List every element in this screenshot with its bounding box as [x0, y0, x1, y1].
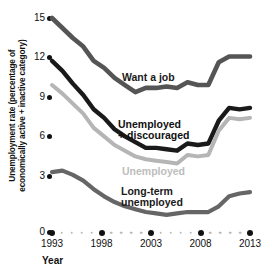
x-axis-dot-2012: [239, 231, 242, 234]
x-axis-dot-2002: [140, 231, 143, 234]
x-axis-label-2013: 2013: [239, 238, 261, 250]
series-label-unemployed-discouraged-line-2: + discouraged: [118, 130, 189, 141]
series-label-want-a-job-text: Want a job: [122, 72, 175, 83]
series-label-unemployed-discouraged: Unemployed + discouraged: [118, 119, 189, 141]
unemployment-line-chart: Unemployment rate (percentage of economi…: [0, 0, 272, 274]
x-axis-dot-2013: [247, 230, 253, 236]
x-axis-dot-2006: [179, 231, 182, 234]
x-axis-tick-dots: [46, 229, 258, 236]
x-axis-dot-1995: [71, 231, 74, 234]
x-axis-label-2003: 2003: [140, 238, 162, 250]
x-axis-label-1998: 1998: [90, 238, 112, 250]
series-label-long-term-unemployed-line-2: unemployed: [121, 197, 183, 208]
x-axis-dot-1994: [61, 231, 64, 234]
series-label-long-term-unemployed: Long-term unemployed: [121, 186, 183, 208]
x-axis-dot-2007: [189, 231, 192, 234]
x-axis-tick-labels: 19931998200320082013: [0, 238, 272, 252]
x-axis-label-2008: 2008: [189, 238, 211, 250]
x-axis-dot-1999: [110, 231, 113, 234]
x-axis-dot-2011: [229, 231, 232, 234]
x-axis-dot-2009: [209, 231, 212, 234]
x-axis-label-1993: 1993: [41, 238, 63, 250]
x-axis-dot-2005: [170, 231, 173, 234]
x-axis-dot-1997: [90, 231, 93, 234]
x-axis-dot-1993: [49, 230, 55, 236]
x-axis-dot-2008: [198, 230, 204, 236]
x-axis-dot-2001: [130, 231, 133, 234]
x-axis-dot-1996: [80, 231, 83, 234]
series-label-unemployed: Unemployed: [122, 166, 185, 177]
x-axis-dot-2000: [120, 231, 123, 234]
x-axis-dot-2010: [219, 231, 222, 234]
x-axis-dot-2003: [148, 230, 154, 236]
series-label-want-a-job: Want a job: [122, 72, 175, 83]
series-label-unemployed-text: Unemployed: [122, 166, 185, 177]
x-axis-dot-2004: [160, 231, 163, 234]
x-axis-dot-1998: [99, 230, 105, 236]
x-axis-title: Year: [42, 255, 63, 267]
